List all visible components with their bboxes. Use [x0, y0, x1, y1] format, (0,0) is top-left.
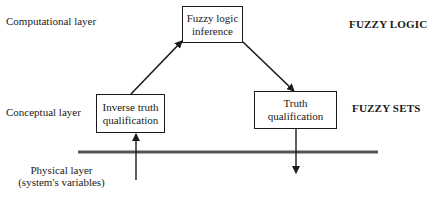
box-line: qualification [103, 114, 159, 127]
physical-layer-label: Physical layer (system's variables) [14, 164, 109, 188]
physical-layer-subtitle: (system's variables) [14, 176, 109, 188]
box-line: Inverse truth [103, 101, 159, 114]
box-line: Fuzzy logic [187, 12, 239, 25]
box-line: Truth [268, 97, 324, 110]
fuzzy-sets-category: FUZZY SETS [352, 102, 421, 114]
physical-layer-title: Physical layer [14, 164, 109, 176]
computational-layer-label: Computational layer [6, 15, 96, 27]
fuzzy-logic-inference-box: Fuzzy logic inference [182, 6, 243, 43]
box-line: qualification [268, 110, 324, 123]
arrow-inference-to-truth [243, 42, 294, 91]
box-line: inference [187, 25, 239, 38]
conceptual-layer-label: Conceptual layer [6, 106, 81, 118]
fuzzy-logic-category: FUZZY LOGIC [349, 18, 428, 30]
inverse-truth-qualification-box: Inverse truth qualification [96, 94, 165, 133]
arrow-inverse-to-inference [131, 41, 182, 94]
truth-qualification-box: Truth qualification [254, 91, 337, 129]
